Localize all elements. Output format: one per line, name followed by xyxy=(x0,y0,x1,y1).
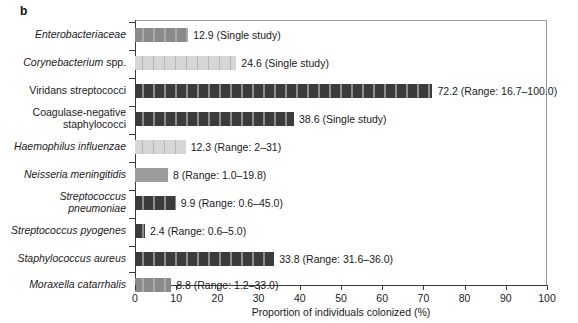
x-axis-tick xyxy=(341,285,342,290)
category-label: Corynebacterium spp. xyxy=(0,57,126,69)
bar xyxy=(135,28,188,42)
x-axis-tick xyxy=(259,285,260,290)
category-label: Streptococcus pyogenes xyxy=(0,225,126,237)
category-label: Staphylococcus aureus xyxy=(0,253,126,265)
x-axis-tick xyxy=(176,285,177,290)
bar-row: Corynebacterium spp.24.6 (Single study) xyxy=(0,50,578,76)
x-axis-tick-label: 100 xyxy=(527,292,567,304)
category-label: Enterobacteriaceae xyxy=(0,29,126,41)
y-axis-tick xyxy=(129,272,135,273)
x-axis-tick xyxy=(217,285,218,290)
bar-row: Streptococcus pneumoniae9.9 (Range: 0.6–… xyxy=(0,190,578,216)
y-axis-tick xyxy=(129,22,135,23)
bar-row: Viridans streptococci72.2 (Range: 16.7–1… xyxy=(0,78,578,104)
bar-value-label: 12.9 (Single study) xyxy=(193,28,281,42)
bar xyxy=(135,224,145,238)
bar xyxy=(135,56,236,70)
panel-letter: b xyxy=(20,4,27,18)
x-axis-title: Proportion of individuals colonized (%) xyxy=(135,306,547,318)
x-axis-tick-label: 40 xyxy=(280,292,320,304)
y-axis-tick xyxy=(129,106,135,107)
bar xyxy=(135,278,171,292)
x-axis-tick xyxy=(506,285,507,290)
x-axis-tick-label: 10 xyxy=(156,292,196,304)
bar-value-label: 12.3 (Range: 2–31) xyxy=(191,140,281,154)
y-axis-tick xyxy=(129,50,135,51)
y-axis-tick xyxy=(129,162,135,163)
x-axis-tick-label: 60 xyxy=(362,292,402,304)
x-axis-tick-label: 80 xyxy=(445,292,485,304)
x-axis-tick xyxy=(547,285,548,290)
y-axis-tick xyxy=(129,218,135,219)
bar xyxy=(135,168,168,182)
bar-value-label: 38.6 (Single study) xyxy=(299,112,387,126)
x-axis-tick xyxy=(465,285,466,290)
bar-value-label: 72.2 (Range: 16.7–100.0) xyxy=(437,84,557,98)
bar-value-label: 9.9 (Range: 0.6–45.0) xyxy=(181,196,283,210)
bar xyxy=(135,252,274,266)
x-axis-tick-label: 30 xyxy=(239,292,279,304)
y-axis-tick xyxy=(129,78,135,79)
x-axis-tick xyxy=(423,285,424,290)
bar-row: Haemophilus influenzae12.3 (Range: 2–31) xyxy=(0,134,578,160)
category-label: Neisseria meningitidis xyxy=(0,169,126,181)
category-label: Moraxella catarrhalis xyxy=(0,279,126,291)
x-axis-tick-label: 90 xyxy=(486,292,526,304)
x-axis-tick-label: 20 xyxy=(197,292,237,304)
bar xyxy=(135,112,294,126)
bar-value-label: 8.8 (Range: 1.2–33.0) xyxy=(176,278,278,292)
category-label: Haemophilus influenzae xyxy=(0,141,126,153)
bar-value-label: 8 (Range: 1.0–19.8) xyxy=(173,168,266,182)
bar xyxy=(135,84,432,98)
category-label: Viridans streptococci xyxy=(0,85,126,97)
x-axis-tick xyxy=(300,285,301,290)
bar-value-label: 33.8 (Range: 31.6–36.0) xyxy=(279,252,393,266)
bar xyxy=(135,196,176,210)
bar-value-label: 24.6 (Single study) xyxy=(241,56,329,70)
bar-value-label: 2.4 (Range: 0.6–5.0) xyxy=(150,224,246,238)
y-axis-tick xyxy=(129,134,135,135)
x-axis-tick-label: 70 xyxy=(403,292,443,304)
bar-row: Streptococcus pyogenes2.4 (Range: 0.6–5.… xyxy=(0,218,578,244)
bar-row: Staphylococcus aureus33.8 (Range: 31.6–3… xyxy=(0,246,578,272)
bar-row: Neisseria meningitidis8 (Range: 1.0–19.8… xyxy=(0,162,578,188)
x-axis-tick-label: 0 xyxy=(115,292,155,304)
category-label: Coagulase-negative staphylococci xyxy=(0,107,126,130)
bar-row: Coagulase-negative staphylococci38.6 (Si… xyxy=(0,106,578,132)
bar-row: Enterobacteriaceae12.9 (Single study) xyxy=(0,22,578,48)
x-axis-tick-label: 50 xyxy=(321,292,361,304)
y-axis-tick xyxy=(129,190,135,191)
bar xyxy=(135,140,186,154)
x-axis-tick xyxy=(382,285,383,290)
y-axis-tick xyxy=(129,246,135,247)
x-axis-tick xyxy=(135,285,136,290)
category-label: Streptococcus pneumoniae xyxy=(0,191,126,214)
